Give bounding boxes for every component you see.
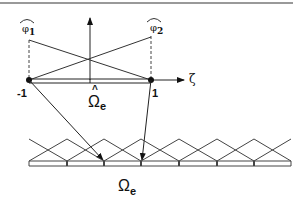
phi2-label: φ2 [150, 23, 163, 33]
zeta-axis-label: ζ [189, 73, 196, 85]
physical-domain-subscript: e [130, 185, 136, 197]
physical-domain-label: Ωe [118, 178, 136, 194]
phi2-subscript: 2 [157, 26, 163, 36]
physical-mesh-bar [29, 161, 291, 166]
mesh-shape-functions [29, 139, 291, 161]
physical-omega-symbol: Ω [118, 177, 130, 194]
phi1-subscript: 1 [29, 27, 35, 37]
reference-domain-subscript: e [100, 100, 106, 112]
mapping-arrow-right [142, 80, 151, 160]
reference-domain-label: ^ Ωe [88, 87, 106, 103]
reference-element-bar [29, 79, 151, 83]
phi1-symbol: φ [22, 23, 29, 34]
phi2-symbol: φ [150, 22, 157, 33]
phi1-label: φ1 [22, 24, 35, 34]
reference-omega-symbol: Ω [88, 93, 100, 110]
node-left-label: -1 [17, 88, 27, 99]
node-right-label: 1 [152, 88, 158, 99]
